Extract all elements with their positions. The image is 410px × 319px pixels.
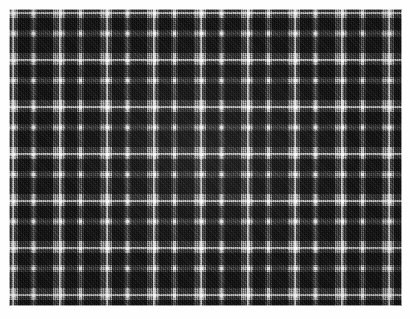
twill-diagonal-layer (9, 9, 402, 306)
warp-stripes-layer (9, 9, 402, 306)
weave-texture-layer (9, 9, 402, 306)
fabric-grain-layer (9, 9, 402, 306)
white-crossings-layer (9, 9, 402, 306)
image-canvas: Close-up of a gray and white tartan plai… (0, 0, 410, 319)
fabric-ground-layer (9, 9, 402, 306)
weft-stripes-layer (9, 9, 402, 306)
vignette-layer (9, 9, 402, 306)
plaid-fabric-swatch (9, 9, 402, 306)
